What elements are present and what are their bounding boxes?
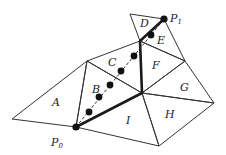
dot-p1 [160,15,167,22]
point-labels: P0 P1 [50,12,182,150]
triangle-f [140,41,185,93]
triangle-b [76,61,142,127]
label-c: C [108,56,117,69]
label-a: A [51,96,60,109]
label-e: E [156,34,165,47]
dot-p0 [72,123,79,130]
label-p1: P1 [169,12,182,26]
label-g: G [180,81,189,94]
label-p0: P0 [50,136,63,150]
label-d: D [139,17,149,30]
dot-5 [131,53,138,60]
label-i: I [125,114,131,127]
label-b: B [91,83,100,96]
dot-1 [86,109,93,116]
dot-6 [148,32,155,39]
intersection-dots [72,15,167,130]
label-f: F [151,59,160,72]
triangulation-diagram: A B C D E F G H I P0 P1 [0,0,226,155]
mesh-edges [12,14,214,146]
triangle-a [12,61,87,127]
triangle-h [142,93,214,146]
dot-4 [118,68,125,75]
label-h: H [164,108,175,121]
dot-3 [107,82,114,89]
